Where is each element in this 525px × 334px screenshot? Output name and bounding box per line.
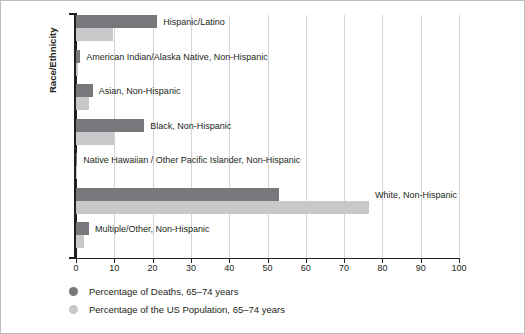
bar-population	[76, 201, 369, 214]
bar-group: Multiple/Other, Non-Hispanic	[76, 222, 459, 257]
bar-deaths	[76, 119, 144, 132]
x-tick-label: 30	[186, 263, 196, 273]
x-tick-label: 70	[339, 263, 349, 273]
legend-label: Percentage of Deaths, 65–74 years	[89, 286, 238, 297]
bar-population	[76, 235, 84, 248]
category-label: Black, Non-Hispanic	[150, 121, 231, 132]
bar-group: White, Non-Hispanic	[76, 188, 459, 223]
bar-deaths	[76, 84, 93, 97]
category-label: Native Hawaiian / Other Pacific Islander…	[83, 155, 300, 166]
bar-deaths	[76, 222, 89, 235]
chart-figure: Race/Ethnicity Hispanic/LatinoAmerican I…	[0, 0, 525, 334]
x-tick-label: 50	[262, 263, 272, 273]
bar-deaths	[76, 50, 80, 63]
legend-item: Percentage of the US Population, 65–74 y…	[69, 300, 285, 318]
category-label: White, Non-Hispanic	[375, 190, 457, 201]
legend-item: Percentage of Deaths, 65–74 years	[69, 282, 285, 300]
bar-group: Asian, Non-Hispanic	[76, 84, 459, 119]
x-tick-label: 40	[224, 263, 234, 273]
bar-deaths	[76, 188, 279, 201]
bar-population	[76, 97, 89, 110]
bar-group: Native Hawaiian / Other Pacific Islander…	[76, 153, 459, 188]
x-tick-label: 10	[109, 263, 119, 273]
legend-marker-circle-icon	[69, 305, 78, 314]
bar-deaths	[76, 15, 157, 28]
bar-population	[76, 63, 78, 76]
x-tick-label: 20	[148, 263, 158, 273]
plot-area: Hispanic/LatinoAmerican Indian/Alaska Na…	[76, 15, 459, 257]
y-axis-title: Race/Ethnicity	[47, 0, 58, 93]
category-label: Asian, Non-Hispanic	[99, 86, 181, 97]
x-tick-label: 60	[301, 263, 311, 273]
bar-group: Hispanic/Latino	[76, 15, 459, 50]
x-tick-label: 90	[416, 263, 426, 273]
x-tick-label: 0	[73, 263, 78, 273]
bar-population	[76, 132, 114, 145]
bar-group: American Indian/Alaska Native, Non-Hispa…	[76, 50, 459, 85]
legend-label: Percentage of the US Population, 65–74 y…	[89, 304, 285, 315]
x-tick-label: 100	[451, 263, 466, 273]
bar-population	[76, 28, 113, 41]
legend-marker-circle-icon	[69, 287, 78, 296]
bar-population	[76, 166, 77, 179]
category-label: American Indian/Alaska Native, Non-Hispa…	[86, 52, 268, 63]
gridline-100	[459, 15, 460, 257]
category-label: Multiple/Other, Non-Hispanic	[95, 224, 210, 235]
category-label: Hispanic/Latino	[163, 17, 225, 28]
x-tick-label: 80	[377, 263, 387, 273]
bar-deaths	[76, 153, 77, 166]
chart-legend: Percentage of Deaths, 65–74 yearsPercent…	[69, 282, 285, 318]
bar-group: Black, Non-Hispanic	[76, 119, 459, 154]
